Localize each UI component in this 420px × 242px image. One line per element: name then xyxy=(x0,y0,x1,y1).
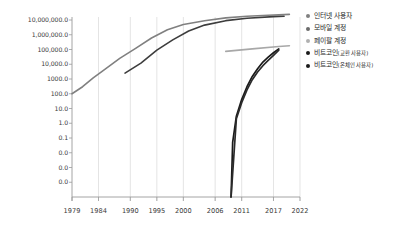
y-tick-label: 100.0 xyxy=(0,91,68,97)
y-tick-label: 0.0 xyxy=(0,179,68,185)
data-series xyxy=(72,14,289,197)
y-tick-label: 1000.0 xyxy=(0,76,68,82)
legend-label: 인터넷 사용자 xyxy=(314,13,352,20)
y-tick-label: 0.0 xyxy=(0,150,68,156)
legend-label: 페이팔 계정 xyxy=(314,38,346,45)
legend-marker-icon xyxy=(306,51,310,55)
legend-item[interactable]: 모바일 계정 xyxy=(306,22,418,34)
y-tick-label: 10,000.0 xyxy=(0,61,68,67)
y-tick-label: 1.0 xyxy=(0,120,68,126)
legend-label: 비트코인(온체인 사용자) xyxy=(314,62,374,69)
legend-marker-icon xyxy=(306,27,310,31)
y-tick-label: 1,000,000.0 xyxy=(0,32,68,38)
legend-item[interactable]: 인터넷 사용자 xyxy=(306,10,418,22)
chart-container: 10,000,000.01,000,000.0100,000.010,000.0… xyxy=(0,0,420,242)
chart-legend: 인터넷 사용자모바일 계정페이팔 계정비트코인(교환 사용자)비트코인(온체인 … xyxy=(306,10,418,72)
series-line xyxy=(231,49,279,197)
gridlines xyxy=(99,17,300,201)
legend-marker-icon xyxy=(306,39,310,43)
legend-label: 모바일 계정 xyxy=(314,25,346,32)
legend-label: 비트코인(교환 사용자) xyxy=(314,50,369,57)
y-tick-label: 100,000.0 xyxy=(0,47,68,53)
legend-marker-icon xyxy=(306,14,310,18)
series-line xyxy=(72,14,289,93)
legend-marker-icon xyxy=(306,64,310,68)
legend-item[interactable]: 비트코인(온체인 사용자) xyxy=(306,60,418,72)
series-line xyxy=(226,46,290,52)
y-tick-label: 10.0 xyxy=(0,106,68,112)
y-tick-label: 10,000,000.0 xyxy=(0,17,68,23)
legend-item[interactable]: 페이팔 계정 xyxy=(306,35,418,47)
legend-item[interactable]: 비트코인(교환 사용자) xyxy=(306,47,418,59)
x-tick-label: 2022 xyxy=(280,208,320,215)
y-tick-label: 0.1 xyxy=(0,135,68,141)
y-tick-label: 0.0 xyxy=(0,165,68,171)
